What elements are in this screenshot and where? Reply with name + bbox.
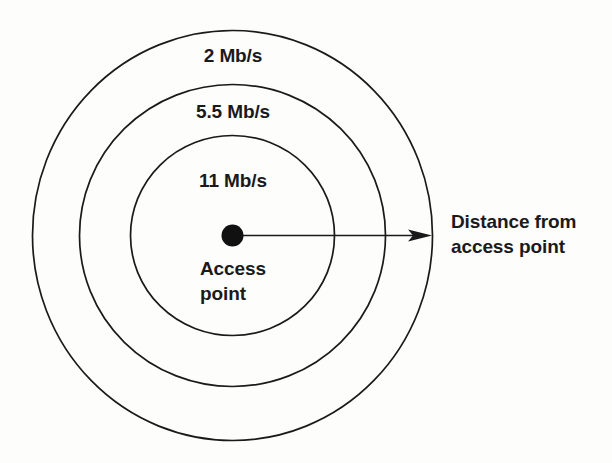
distance-axis-label-line2: access point (451, 234, 576, 259)
wireless-coverage-diagram: 2 Mb/s 5.5 Mb/s 11 Mb/s Access point Dis… (0, 0, 612, 463)
ring-label-inner: 11 Mb/s (199, 171, 267, 190)
access-point-label-line1: Access (200, 256, 266, 281)
distance-axis-label-line1: Distance from (451, 209, 576, 234)
distance-axis-label: Distance from access point (451, 209, 576, 259)
ring-label-middle: 5.5 Mb/s (196, 102, 270, 121)
access-point-dot-icon (222, 225, 244, 247)
access-point-label: Access point (200, 256, 266, 306)
access-point-label-line2: point (200, 281, 266, 306)
ring-label-outer: 2 Mb/s (204, 46, 263, 65)
